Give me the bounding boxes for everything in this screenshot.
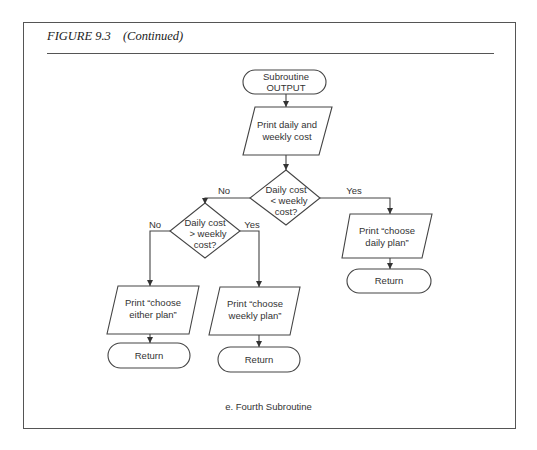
flowchart: Subroutine OUTPUT Print daily and weekly… [0,0,537,450]
figure-caption: e. Fourth Subroutine [0,401,537,412]
print-weekly-label-1: Print “choose [227,298,283,309]
connector-no [150,231,170,286]
arrow-down-icon [147,280,153,286]
print-either-plan-io: Print “choose either plan” [107,286,199,334]
start-label-1: Subroutine [263,71,309,82]
print-costs-label-2: weekly cost [261,131,311,142]
connector-no [205,198,250,203]
arrow-down-icon [147,337,153,343]
arrow-down-icon [283,101,289,107]
print-either-label-1: Print “choose [125,297,181,308]
print-weekly-label-2: weekly plan” [228,310,282,321]
decision-daily-less-than-weekly: Daily cost < weekly cost? [250,170,320,225]
print-weekly-plan-io: Print “choose weekly plan” [209,287,300,335]
return-label: Return [375,275,404,286]
arrow-down-icon [256,281,262,287]
decision-less-label-1: Daily cost [265,184,307,195]
arrow-down-icon [387,263,393,269]
decision-less-label-3: cost? [275,206,298,217]
return-terminal-weekly: Return [218,347,300,372]
return-label: Return [135,350,164,361]
return-terminal-either: Return [108,343,190,368]
arrow-down-icon [387,208,393,214]
print-costs-label-1: Print daily and [257,119,317,130]
connector-yes [240,231,259,287]
branch-label-yes: Yes [346,185,362,196]
print-daily-plan-io: Print “choose daily plan” [342,214,432,258]
return-label: Return [245,354,274,365]
decision-less-label-2: < weekly [270,195,307,206]
connector-yes [320,198,390,214]
arrow-down-icon [283,164,289,170]
decision-greater-label-3: cost? [194,239,217,250]
decision-daily-greater-than-weekly: Daily cost > weekly cost? [170,203,240,258]
print-costs-io: Print daily and weekly cost [243,107,332,155]
branch-label-yes: Yes [244,219,260,230]
branch-label-no: No [218,185,230,196]
print-either-label-2: either plan” [129,309,177,320]
print-daily-label-1: Print “choose [359,225,415,236]
return-terminal-daily: Return [347,269,431,293]
print-daily-label-2: daily plan” [365,237,408,248]
decision-greater-label-2: > weekly [189,228,226,239]
start-label-2: OUTPUT [266,82,305,93]
branch-label-no: No [149,219,161,230]
decision-greater-label-1: Daily cost [184,217,226,228]
start-terminal: Subroutine OUTPUT [243,70,326,94]
arrow-down-icon [256,341,262,347]
